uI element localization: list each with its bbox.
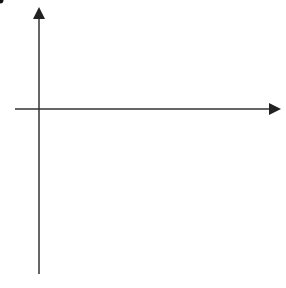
- coordinate-diagram: [0, 0, 286, 288]
- marked-point: [0, 0, 4, 4]
- diagram-canvas: [0, 0, 286, 288]
